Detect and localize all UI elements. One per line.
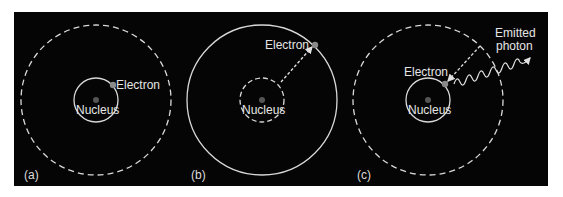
nucleus-label: Nucleus <box>242 103 285 117</box>
de-excitation-arrow <box>448 46 480 81</box>
electron <box>442 81 448 87</box>
electron <box>312 42 318 48</box>
panel-b: Electron Nucleus (b) <box>187 25 337 182</box>
nucleus-label: Nucleus <box>408 103 451 117</box>
nucleus-label: Nucleus <box>76 103 119 117</box>
electron-label: Electron <box>265 38 309 52</box>
panel-label-c: (c) <box>357 168 371 182</box>
diagram-panel: Electron Nucleus (a) Electron Nucleus (b… <box>14 12 548 186</box>
photon-label-line1: Emitted <box>495 26 536 40</box>
panel-label-a: (a) <box>24 168 39 182</box>
electron-label: Electron <box>116 78 160 92</box>
electron-label: Electron <box>404 65 448 79</box>
panel-a: Electron Nucleus (a) <box>21 25 171 182</box>
excitation-arrow <box>281 47 312 82</box>
bohr-atom-diagram: Electron Nucleus (a) Electron Nucleus (b… <box>14 12 548 186</box>
panel-label-b: (b) <box>191 168 206 182</box>
photon-label-line2: photon <box>496 39 533 53</box>
panel-c: Electron Nucleus Emitted photon (c) <box>353 25 536 182</box>
